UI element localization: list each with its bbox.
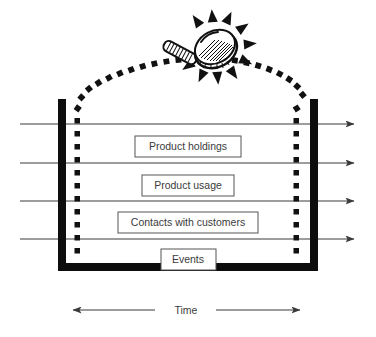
layer-box-group: Product holdings Product usage Contacts … xyxy=(118,136,258,270)
layer-label: Contacts with customers xyxy=(131,216,245,228)
magnifier-lens xyxy=(189,23,241,71)
diagram-svg: Product holdings Product usage Contacts … xyxy=(0,0,376,337)
container-left-wall xyxy=(58,99,66,271)
layer-events[interactable]: Events xyxy=(161,249,216,270)
dotted-column-left xyxy=(75,118,81,254)
magnifying-glass-icon xyxy=(162,9,258,86)
time-axis: Time xyxy=(73,304,300,316)
dotted-column-right xyxy=(294,118,300,254)
layer-contacts-with-customers[interactable]: Contacts with customers xyxy=(118,212,258,233)
layer-label: Events xyxy=(172,253,204,265)
time-axis-label: Time xyxy=(175,304,198,316)
layer-label: Product holdings xyxy=(149,140,227,152)
layer-product-usage[interactable]: Product usage xyxy=(142,175,234,196)
layer-product-holdings[interactable]: Product holdings xyxy=(135,136,241,157)
container-right-wall xyxy=(310,99,318,271)
diagram-canvas: Product holdings Product usage Contacts … xyxy=(0,0,376,337)
layer-label: Product usage xyxy=(154,179,222,191)
